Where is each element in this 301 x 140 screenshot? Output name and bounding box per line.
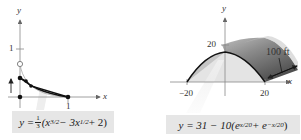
point bbox=[29, 84, 33, 88]
point bbox=[66, 95, 71, 100]
dimension-label: 100 ft bbox=[266, 46, 290, 57]
point bbox=[24, 79, 28, 83]
right-graph bbox=[170, 18, 298, 113]
x-axis-label: x bbox=[103, 91, 107, 101]
x-tick-label: 1 bbox=[66, 101, 71, 111]
left-graph bbox=[8, 20, 100, 110]
fraction: 1 3 bbox=[35, 115, 41, 130]
y-axis-label: y bbox=[17, 5, 21, 15]
y-tick-label: 1 bbox=[9, 43, 14, 53]
x-tick-label-pos: 20 bbox=[260, 88, 269, 98]
x-tick-label-neg: −20 bbox=[179, 88, 193, 98]
x-axis-label: x bbox=[288, 76, 292, 86]
y-axis-label: y bbox=[222, 3, 226, 13]
equation-left: y = 1 3 (x3/2 − 3x1/2 + 2) bbox=[12, 111, 114, 133]
equation-right: y = 31 − 10(ex/20 + e−x/20) bbox=[166, 115, 300, 134]
open-point bbox=[17, 61, 22, 66]
point bbox=[18, 76, 23, 81]
y-tick-label: 20 bbox=[207, 39, 216, 49]
origin-point bbox=[18, 95, 23, 100]
